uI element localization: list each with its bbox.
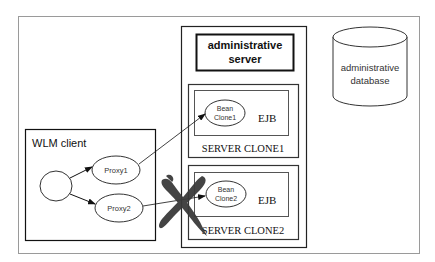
- wlm-diagram: administrative server Bean Clone1 EJB SE…: [0, 0, 435, 262]
- admin-server-box: administrative server: [197, 35, 294, 71]
- proxy1-label: Proxy1: [104, 166, 127, 175]
- bean-clone1: [205, 100, 245, 126]
- server-clone1-label: SERVER CLONE1: [202, 143, 284, 154]
- bean-clone2-line2: Clone2: [215, 195, 237, 202]
- bean-clone2: [206, 181, 246, 207]
- admin-server-line2: server: [228, 53, 262, 65]
- wlm-client-box: WLM client Proxy1 Proxy2: [26, 130, 156, 241]
- admin-server-line1: administrative: [208, 39, 283, 51]
- bean-clone1-line1: Bean: [217, 105, 233, 112]
- ejb-label-1: EJB: [258, 112, 276, 124]
- bean-clone1-line2: Clone1: [214, 114, 236, 121]
- client-node: [40, 171, 72, 201]
- admin-database-cylinder: administrative database: [333, 27, 407, 106]
- server-clone2-label: SERVER CLONE2: [202, 225, 284, 236]
- ejb-label-2: EJB: [258, 194, 276, 206]
- admin-database-line2: database: [350, 75, 389, 86]
- wlm-client-label: WLM client: [32, 137, 86, 149]
- server-clone1: Bean Clone1 EJB SERVER CLONE1: [189, 85, 299, 158]
- admin-database-line1: administrative: [341, 62, 400, 73]
- proxy2-label: Proxy2: [107, 204, 130, 213]
- bean-clone2-line1: Bean: [218, 186, 234, 193]
- server-clone2: Bean Clone2 EJB SERVER CLONE2: [189, 166, 299, 240]
